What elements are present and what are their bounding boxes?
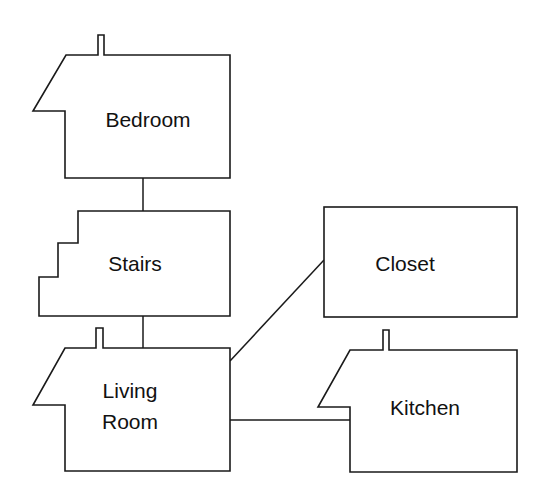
node-label: Kitchen [390,396,460,419]
node-label: Bedroom [105,108,190,131]
node-bedroom: Bedroom [33,35,230,178]
node-label-line1: Living [103,379,158,402]
edge-living-room-closet [230,260,324,361]
node-living-room: Living Room [33,328,230,471]
node-kitchen: Kitchen [318,330,517,472]
node-closet: Closet [324,207,517,317]
house-shape-icon [33,35,230,178]
node-label: Stairs [108,252,162,275]
node-label: Closet [375,252,435,275]
node-label-line2: Room [102,410,158,433]
node-stairs: Stairs [39,211,230,316]
room-diagram: Bedroom Stairs Closet Living Room Kitche… [0,0,545,503]
